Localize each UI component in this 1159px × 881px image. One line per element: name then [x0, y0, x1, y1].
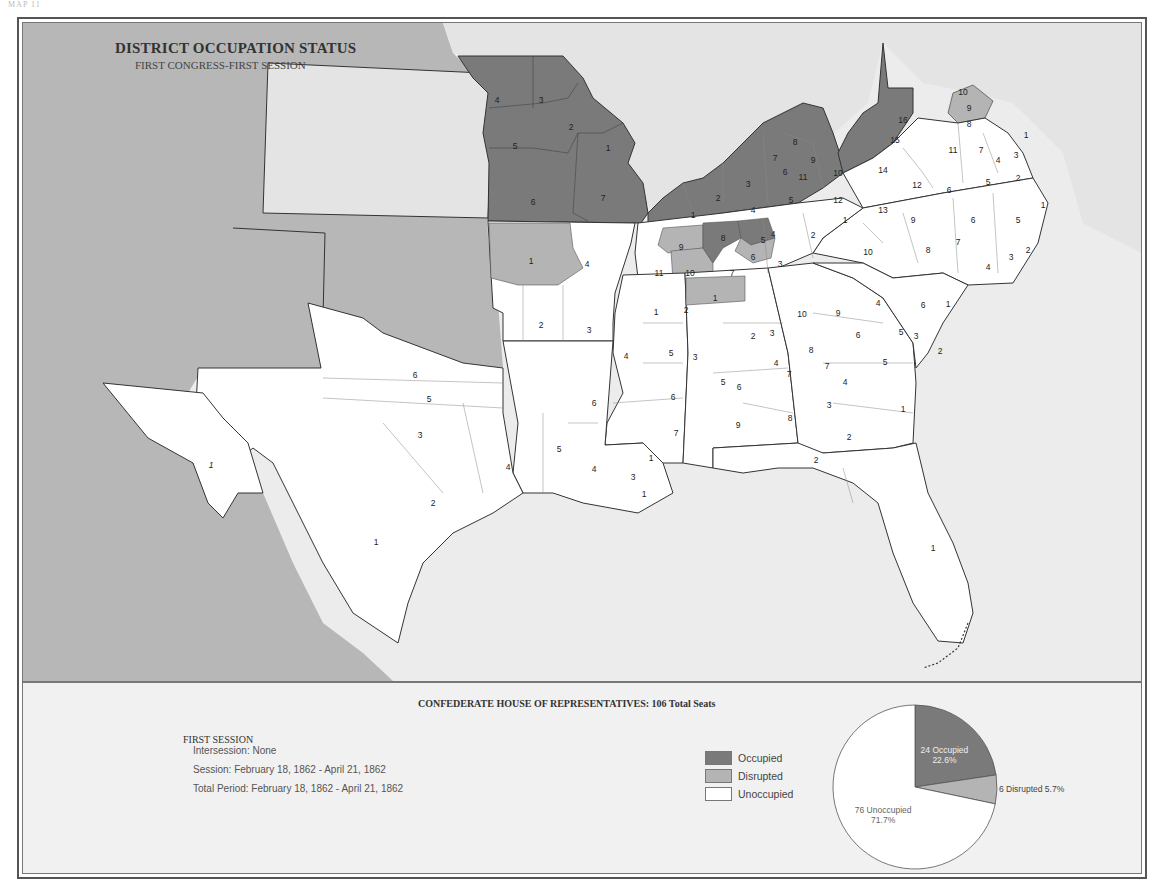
svg-text:6: 6 — [592, 398, 597, 408]
svg-text:9: 9 — [811, 155, 816, 165]
svg-text:8: 8 — [793, 137, 798, 147]
svg-text:10: 10 — [797, 309, 807, 319]
svg-text:6: 6 — [413, 370, 418, 380]
svg-text:1: 1 — [1041, 200, 1046, 210]
svg-text:5: 5 — [721, 377, 726, 387]
svg-text:3: 3 — [770, 328, 775, 338]
svg-text:6: 6 — [671, 392, 676, 402]
svg-text:7: 7 — [730, 268, 735, 278]
svg-text:3: 3 — [693, 352, 698, 362]
svg-text:12: 12 — [833, 195, 843, 205]
svg-text:4: 4 — [585, 259, 590, 269]
svg-text:4: 4 — [506, 462, 511, 472]
svg-text:6: 6 — [531, 197, 536, 207]
svg-text:6: 6 — [856, 330, 861, 340]
svg-text:5: 5 — [986, 177, 991, 187]
svg-text:2: 2 — [431, 498, 436, 508]
svg-text:3: 3 — [631, 472, 636, 482]
svg-text:9: 9 — [836, 308, 841, 318]
svg-text:1: 1 — [901, 404, 906, 414]
svg-text:3: 3 — [914, 331, 919, 341]
svg-text:1: 1 — [529, 256, 534, 266]
session-text: Session: February 18, 1862 - April 21, 1… — [193, 764, 386, 775]
svg-text:8: 8 — [788, 413, 793, 423]
svg-text:1: 1 — [946, 299, 951, 309]
svg-text:8: 8 — [809, 345, 814, 355]
svg-text:7: 7 — [773, 153, 778, 163]
kansas — [263, 63, 493, 218]
svg-text:2: 2 — [569, 122, 574, 132]
total-period-text: Total Period: February 18, 1862 - April … — [193, 783, 403, 794]
pie-percent-unoccupied: 71.7% — [871, 815, 896, 825]
svg-text:5: 5 — [789, 195, 794, 205]
svg-text:2: 2 — [539, 320, 544, 330]
svg-text:9: 9 — [736, 420, 741, 430]
svg-text:2: 2 — [811, 230, 816, 240]
svg-text:16: 16 — [898, 115, 908, 125]
disrupted-swatch — [705, 769, 732, 783]
svg-text:3: 3 — [418, 430, 423, 440]
map-svg: 43 25 16 7 12 34 56 78 910 1112 1415 169… — [23, 23, 1141, 681]
svg-text:4: 4 — [771, 229, 776, 239]
svg-text:5: 5 — [427, 394, 432, 404]
occupied-swatch — [705, 751, 732, 765]
legend-panel: CONFEDERATE HOUSE OF REPRESENTATIVES: 10… — [23, 683, 1141, 873]
pie-chart: 24 Occupied22.6%6 Disrupted 5.7%76 Unocc… — [805, 703, 1105, 877]
svg-text:2: 2 — [1016, 173, 1021, 183]
svg-text:9: 9 — [911, 215, 916, 225]
svg-text:7: 7 — [956, 237, 961, 247]
svg-text:11: 11 — [799, 172, 808, 182]
intersession-text: Intersession: None — [193, 745, 276, 756]
svg-text:1: 1 — [654, 307, 659, 317]
svg-text:7: 7 — [674, 428, 679, 438]
svg-text:1: 1 — [374, 537, 379, 547]
svg-text:10: 10 — [833, 168, 843, 178]
svg-text:1: 1 — [843, 215, 848, 225]
session-heading: FIRST SESSION — [183, 734, 253, 745]
svg-text:5: 5 — [513, 141, 518, 151]
svg-text:5: 5 — [557, 444, 562, 454]
svg-text:13: 13 — [878, 205, 888, 215]
svg-text:2: 2 — [684, 305, 689, 315]
svg-text:5: 5 — [883, 357, 888, 367]
svg-text:1: 1 — [1024, 130, 1029, 140]
legend-heading: CONFEDERATE HOUSE OF REPRESENTATIVES: 10… — [418, 698, 715, 709]
svg-text:2: 2 — [1026, 245, 1031, 255]
svg-text:1: 1 — [642, 489, 647, 499]
pie-label-unoccupied: 76 Unoccupied — [855, 805, 912, 815]
svg-text:4: 4 — [592, 464, 597, 474]
svg-text:6: 6 — [971, 215, 976, 225]
svg-text:1: 1 — [931, 543, 936, 553]
svg-text:3: 3 — [778, 259, 783, 269]
svg-text:8: 8 — [967, 119, 972, 129]
pie-label-occupied: 24 Occupied — [921, 745, 969, 755]
svg-text:4: 4 — [876, 298, 881, 308]
arkansas-disrupted-1 — [489, 223, 583, 285]
svg-text:11: 11 — [949, 145, 958, 155]
map-area: 43 25 16 7 12 34 56 78 910 1112 1415 169… — [23, 23, 1141, 683]
svg-text:3: 3 — [1009, 252, 1014, 262]
legend-key-occupied: Occupied — [705, 751, 782, 765]
svg-text:4: 4 — [495, 95, 500, 105]
svg-text:3: 3 — [827, 400, 832, 410]
unoccupied-swatch — [705, 787, 732, 801]
pie-label-disrupted: 6 Disrupted 5.7% — [999, 784, 1065, 794]
svg-text:14: 14 — [878, 165, 888, 175]
svg-text:6: 6 — [947, 185, 952, 195]
map-title: DISTRICT OCCUPATION STATUS — [115, 40, 356, 57]
svg-text:7: 7 — [601, 193, 606, 203]
svg-text:2: 2 — [751, 331, 756, 341]
svg-text:11: 11 — [655, 268, 664, 278]
svg-text:6: 6 — [783, 167, 788, 177]
svg-text:6: 6 — [921, 300, 926, 310]
svg-text:4: 4 — [843, 377, 848, 387]
map-subtitle: FIRST CONGRESS-FIRST SESSION — [135, 59, 306, 71]
pie-percent-occupied: 22.6% — [932, 755, 957, 765]
svg-text:5: 5 — [761, 235, 766, 245]
svg-text:6: 6 — [751, 252, 756, 262]
legend-key-unoccupied: Unoccupied — [705, 787, 793, 801]
svg-text:5: 5 — [669, 348, 674, 358]
legend-key-disrupted: Disrupted — [705, 769, 783, 783]
svg-text:10: 10 — [958, 87, 968, 97]
svg-text:6: 6 — [737, 382, 742, 392]
